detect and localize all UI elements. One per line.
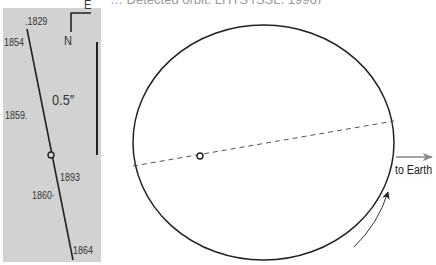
- scale-bar-label: 0.5″: [52, 92, 74, 107]
- primary-position-marker: [48, 152, 54, 158]
- apparent-track-line: [27, 29, 73, 260]
- compass-east-label: E: [84, 0, 91, 11]
- compass-north-label: N: [64, 34, 72, 47]
- epoch-label-1859: 1859.: [5, 110, 27, 121]
- epoch-label-1854: 1854: [4, 37, 24, 48]
- epoch-label-1864: 1864: [73, 245, 93, 256]
- to-earth-label: to Earth: [395, 163, 432, 177]
- compass-icon: [71, 13, 91, 32]
- line-of-nodes: [133, 121, 394, 166]
- epoch-label-1829: .1829: [25, 16, 47, 27]
- primary-star-marker: [197, 153, 203, 159]
- orbit-ellipse: [133, 25, 394, 260]
- epoch-label-1893: 1893: [60, 172, 80, 183]
- orbital-motion-arrow-icon: [354, 192, 388, 247]
- epoch-label-1860: 1860·: [32, 190, 55, 201]
